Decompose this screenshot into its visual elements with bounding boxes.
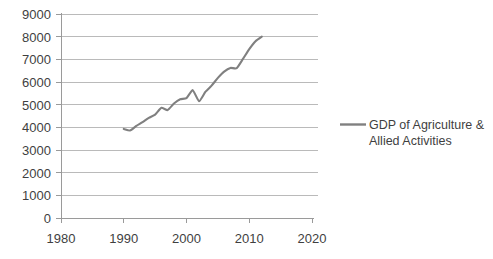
x-axis-label-2020: 2020 xyxy=(298,231,327,246)
x-axis-label-2000: 2000 xyxy=(172,231,201,246)
y-axis-label-4000: 4000 xyxy=(22,120,51,135)
y-axis-label-5000: 5000 xyxy=(22,98,51,113)
y-axis-label-2000: 2000 xyxy=(22,166,51,181)
legend-label-line1: GDP of Agriculture & xyxy=(369,118,485,132)
line-chart: 9000 8000 7000 6000 5000 4000 3000 2000 … xyxy=(0,0,493,259)
y-axis-label-7000: 7000 xyxy=(22,52,51,67)
chart-container: 9000 8000 7000 6000 5000 4000 3000 2000 … xyxy=(0,0,493,259)
x-axis-label-2010: 2010 xyxy=(235,231,264,246)
y-axis-label-3000: 3000 xyxy=(22,143,51,158)
y-axis-label-8000: 8000 xyxy=(22,30,51,45)
legend-label-line2: Allied Activities xyxy=(369,134,452,148)
y-axis-label-0: 0 xyxy=(44,211,51,226)
y-axis-label-9000: 9000 xyxy=(22,7,51,22)
y-axis-label-6000: 6000 xyxy=(22,75,51,90)
x-axis-label-1980: 1980 xyxy=(47,231,76,246)
x-axis-label-1990: 1990 xyxy=(109,231,138,246)
y-axis-label-1000: 1000 xyxy=(22,188,51,203)
